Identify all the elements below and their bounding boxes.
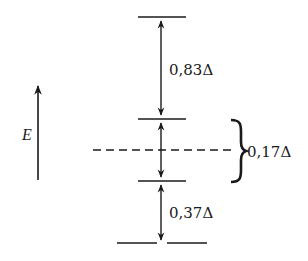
gap-label-upper: 0,83Δ [169,61,213,79]
gap-label-lower: 0,37Δ [169,204,213,222]
energy-axis: E [21,86,38,180]
gap-label-middle: 0,17Δ [247,143,291,161]
energy-axis-label: E [21,126,32,143]
curly-brace-icon [231,120,246,182]
energy-level-diagram: E 0,83Δ 0,37Δ 0,17Δ [0,0,308,261]
